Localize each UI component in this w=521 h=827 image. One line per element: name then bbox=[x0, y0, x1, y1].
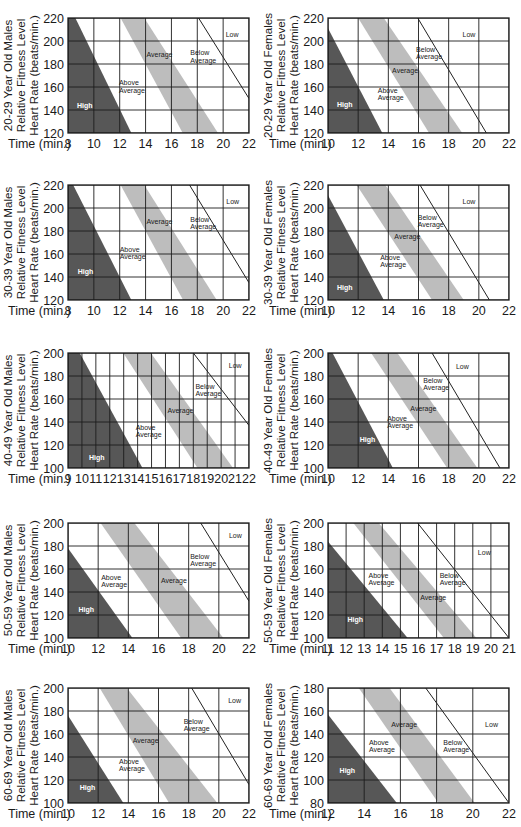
y-tick-label: 180 bbox=[43, 225, 64, 239]
y-tick-label: 120 bbox=[43, 439, 64, 453]
chart-20-29-females: LowBelowAverageAverageAboveAverageHigh12… bbox=[260, 0, 521, 160]
x-tick-label: 20 bbox=[212, 642, 226, 656]
x-tick-label: 21 bbox=[502, 642, 516, 656]
y-axis-title-line: Heart Rate (beats/min.) bbox=[27, 182, 40, 303]
x-tick-label: 20 bbox=[472, 137, 486, 151]
chart-30-39-females: LowBelowAverageAverageAboveAverageHigh12… bbox=[260, 167, 521, 327]
y-axis-title-line: 40-49 Year Old Females bbox=[261, 348, 274, 473]
x-tick-label: 22 bbox=[502, 137, 516, 151]
x-tick-label: 20 bbox=[484, 642, 498, 656]
x-tick-label: 18 bbox=[430, 807, 444, 821]
y-axis-title-line: Relative Fitness Level bbox=[14, 354, 27, 467]
chart-40-49-males: LowBelowAverageAverageAboveAverageHigh10… bbox=[0, 335, 261, 495]
y-tick-label: 220 bbox=[43, 12, 64, 26]
x-tick-label: 10 bbox=[75, 472, 89, 486]
y-tick-label: 120 bbox=[303, 439, 324, 453]
region-label: Low bbox=[478, 549, 492, 556]
x-tick-label: 10 bbox=[87, 137, 101, 151]
y-tick-label: 200 bbox=[303, 202, 324, 216]
region-label: High bbox=[348, 616, 364, 624]
y-tick-label: 140 bbox=[43, 586, 64, 600]
y-tick-label: 140 bbox=[303, 104, 324, 118]
region-label: Low bbox=[456, 363, 470, 370]
region-label: Low bbox=[463, 31, 477, 38]
plot-area bbox=[328, 185, 509, 300]
x-axis-label: Time (min.) bbox=[269, 137, 332, 151]
x-tick-label: 22 bbox=[242, 807, 256, 821]
y-tick-label: 140 bbox=[303, 416, 324, 430]
chart-20-29-males: LowBelowAverageAverageAboveAverageHigh12… bbox=[0, 0, 261, 160]
y-axis-title-line: Heart Rate (beats/min.) bbox=[287, 182, 300, 303]
y-tick-label: 180 bbox=[43, 540, 64, 554]
x-tick-label: 16 bbox=[164, 304, 178, 318]
x-tick-label: 20 bbox=[472, 472, 486, 486]
y-axis-title-line: Heart Rate (beats/min.) bbox=[287, 15, 300, 136]
x-tick-label: 18 bbox=[442, 472, 456, 486]
x-tick-label: 17 bbox=[430, 642, 444, 656]
x-tick-label: 14 bbox=[121, 642, 135, 656]
x-tick-label: 18 bbox=[186, 472, 200, 486]
y-tick-label: 140 bbox=[303, 271, 324, 285]
region-label: Low bbox=[226, 198, 240, 205]
x-tick-label: 12 bbox=[351, 472, 365, 486]
x-tick-label: 14 bbox=[375, 642, 389, 656]
x-tick-label: 22 bbox=[502, 472, 516, 486]
x-tick-label: 22 bbox=[242, 137, 256, 151]
x-tick-label: 19 bbox=[200, 472, 214, 486]
x-tick-label: 12 bbox=[91, 807, 105, 821]
y-tick-label: 200 bbox=[43, 202, 64, 216]
y-tick-label: 160 bbox=[303, 393, 324, 407]
region-label: Average bbox=[146, 51, 172, 59]
y-tick-label: 200 bbox=[43, 347, 64, 361]
x-tick-label: 20 bbox=[216, 304, 230, 318]
y-axis-title-line: 30-39 Year Old Males bbox=[1, 187, 14, 299]
y-axis-title-line: Relative Fitness Level bbox=[14, 19, 27, 132]
x-tick-label: 14 bbox=[131, 472, 145, 486]
y-tick-label: 160 bbox=[303, 248, 324, 262]
x-tick-label: 16 bbox=[152, 807, 166, 821]
x-tick-label: 16 bbox=[412, 472, 426, 486]
x-tick-label: 18 bbox=[190, 137, 204, 151]
plot-area bbox=[328, 688, 509, 803]
y-axis-title-line: Heart Rate (beats/min.) bbox=[27, 685, 40, 806]
region-label: High bbox=[77, 102, 93, 110]
y-tick-label: 100 bbox=[303, 774, 324, 788]
y-tick-label: 160 bbox=[43, 728, 64, 742]
x-tick-label: 18 bbox=[442, 304, 456, 318]
y-tick-label: 180 bbox=[303, 540, 324, 554]
x-tick-label: 14 bbox=[121, 807, 135, 821]
x-axis-label: Time (min.) bbox=[8, 472, 71, 486]
y-tick-label: 120 bbox=[43, 774, 64, 788]
x-tick-label: 14 bbox=[357, 807, 371, 821]
x-tick-label: 14 bbox=[381, 137, 395, 151]
y-tick-label: 120 bbox=[303, 609, 324, 623]
x-axis-label: Time (min.) bbox=[269, 472, 332, 486]
region-label: Low bbox=[229, 362, 243, 369]
y-tick-label: 160 bbox=[43, 81, 64, 95]
y-tick-label: 200 bbox=[303, 347, 324, 361]
y-tick-label: 160 bbox=[303, 705, 324, 719]
x-axis-label: Time (min.) bbox=[269, 304, 332, 318]
y-axis-title-line: 50-59 Year Old Females bbox=[261, 518, 274, 643]
x-axis-label: Time (min.) bbox=[269, 642, 332, 656]
region-label: High bbox=[89, 454, 105, 462]
y-axis-title-line: Relative Fitness Level bbox=[274, 19, 287, 132]
y-tick-label: 220 bbox=[303, 179, 324, 193]
y-axis-title-line: 60-69 Year Old Males bbox=[1, 690, 14, 802]
region-label: Average bbox=[146, 218, 172, 226]
y-tick-label: 220 bbox=[43, 179, 64, 193]
region-label: Average bbox=[392, 67, 418, 75]
x-tick-label: 22 bbox=[502, 807, 516, 821]
region-label: Low bbox=[229, 532, 243, 539]
y-tick-label: 200 bbox=[303, 517, 324, 531]
plot-area bbox=[68, 185, 249, 300]
x-tick-label: 12 bbox=[351, 137, 365, 151]
y-axis-title-line: Relative Fitness Level bbox=[14, 689, 27, 802]
y-tick-label: 140 bbox=[43, 271, 64, 285]
x-tick-label: 20 bbox=[212, 807, 226, 821]
y-axis-title-line: 20-29 Year Old Males bbox=[1, 20, 14, 132]
region-label: Average bbox=[133, 737, 159, 745]
x-tick-label: 16 bbox=[412, 304, 426, 318]
x-tick-label: 21 bbox=[228, 472, 242, 486]
y-axis-title-line: Heart Rate (beats/min.) bbox=[287, 350, 300, 471]
